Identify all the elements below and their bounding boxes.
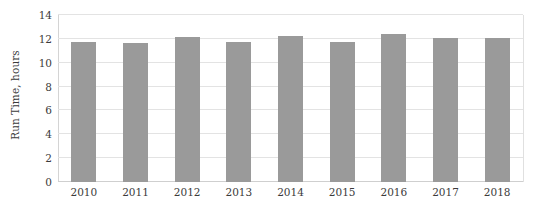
bar [381, 34, 406, 183]
x-axis-tick-label: 2012 [174, 186, 201, 198]
x-axis-tick-label: 2014 [277, 186, 304, 198]
y-axis-tick-label: 2 [45, 152, 52, 164]
bar-chart: Run Time, hours 02468101214 201020112012… [0, 0, 546, 214]
y-axis-tick-label: 14 [39, 9, 52, 21]
bars-layer [58, 15, 523, 182]
x-axis-tick-label: 2011 [122, 186, 149, 198]
y-axis-tick-label: 6 [45, 104, 52, 116]
y-axis-title: Run Time, hours [0, 0, 30, 190]
x-axis-tick-label: 2016 [380, 186, 407, 198]
x-axis-tick-label: 2017 [432, 186, 459, 198]
y-axis-tick-labels: 02468101214 [30, 0, 56, 190]
bar [226, 42, 251, 182]
plot-area [58, 15, 523, 182]
y-axis-tick-label: 10 [39, 57, 52, 69]
y-axis-tick-label: 8 [45, 81, 52, 93]
y-axis-tick-label: 12 [39, 33, 52, 45]
x-axis-tick-label: 2015 [329, 186, 356, 198]
bar [485, 38, 510, 182]
x-axis-tick-labels: 201020112012201320142015201620172018 [58, 186, 523, 206]
x-axis-tick-label: 2013 [225, 186, 252, 198]
bar [433, 38, 458, 182]
x-axis-tick-label: 2010 [70, 186, 97, 198]
bar [330, 42, 355, 182]
bar [278, 36, 303, 182]
bar [123, 43, 148, 182]
bar [71, 42, 96, 182]
y-axis-title-label: Run Time, hours [9, 50, 21, 140]
y-axis-tick-label: 4 [45, 128, 52, 140]
y-axis-tick-label: 0 [45, 176, 52, 188]
x-axis-tick-label: 2018 [484, 186, 511, 198]
bar [175, 37, 200, 182]
plot-right-border [523, 15, 524, 182]
